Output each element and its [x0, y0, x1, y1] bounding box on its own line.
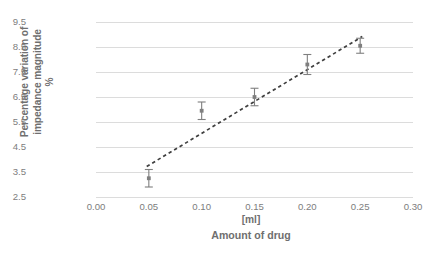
gridline [96, 197, 413, 198]
y-axis-tick-label: 5.5 [0, 117, 26, 127]
y-axis-title-line-2: impedance magnitude [32, 29, 44, 135]
data-point-group [303, 55, 311, 75]
y-axis-tick-label: 9.5 [0, 17, 26, 27]
data-point-group [198, 102, 206, 120]
data-point-marker [200, 109, 204, 113]
y-axis-tick-label: 7.5 [0, 67, 26, 77]
chart-figure: Percentage variation of impedance magnit… [0, 0, 444, 262]
y-axis-tick-label: 4.5 [0, 142, 26, 152]
y-axis-tick-label: 6.5 [0, 92, 26, 102]
data-point-group [145, 170, 153, 188]
x-axis-tick-label: 0.05 [127, 201, 171, 212]
data-point-group [356, 38, 364, 53]
x-axis-tick-label: 0.00 [74, 201, 118, 212]
data-point-marker [358, 44, 362, 48]
x-axis-tick-label: 0.10 [180, 201, 224, 212]
y-axis-tick-label: 2.5 [0, 192, 26, 202]
data-series-layer [96, 22, 413, 197]
y-axis-tick-label: 3.5 [0, 167, 26, 177]
data-point-marker [147, 176, 151, 180]
x-axis-tick-label: 0.15 [233, 201, 277, 212]
plot-area [96, 22, 413, 197]
x-axis-title: Amount of drug [0, 229, 444, 242]
x-axis-tick-label: 0.30 [391, 201, 435, 212]
x-axis-unit-label: [ml] [0, 214, 444, 226]
x-axis-tick-label: 0.25 [338, 201, 382, 212]
x-axis-tick-label: 0.20 [285, 201, 329, 212]
y-axis-title-line-3: % [44, 78, 56, 87]
y-axis-tick-label: 8.5 [0, 42, 26, 52]
data-point-marker [253, 95, 257, 99]
data-point-marker [305, 63, 309, 67]
